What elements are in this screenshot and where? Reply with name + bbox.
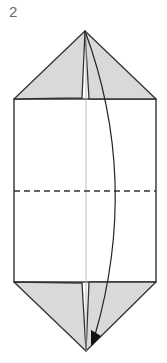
bottom-right-flap [86, 282, 156, 351]
bottom-left-flap [14, 282, 86, 351]
top-left-flap [14, 31, 85, 99]
origami-diagram [0, 0, 167, 363]
